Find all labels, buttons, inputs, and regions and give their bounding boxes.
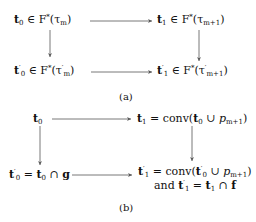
b-node-bottom-left: t′0 = t0 ∩ g bbox=[9, 169, 70, 181]
b-node-top-right: t1 = conv(t0 ∪ pm+1) bbox=[137, 113, 247, 125]
b-node-bottom-right-line2: and t′1 = t1 ∩ f bbox=[154, 180, 236, 192]
a-node-bottom-left: t′0 ∈ F*(τ′m) bbox=[14, 65, 74, 77]
caption-b: (b) bbox=[119, 202, 133, 213]
a-node-top-right: t1 ∈ F*(τm+1) bbox=[157, 14, 225, 26]
a-node-top-left: t0 ∈ F*(τm) bbox=[14, 14, 71, 26]
a-node-bottom-right: t′1 ∈ F*(τ′m+1) bbox=[157, 65, 228, 77]
b-node-top-left: t0 bbox=[33, 113, 43, 125]
caption-a: (a) bbox=[119, 91, 133, 102]
b-node-bottom-right-line1: t′1 = conv(t′0 ∪ pm+1) bbox=[138, 166, 251, 178]
